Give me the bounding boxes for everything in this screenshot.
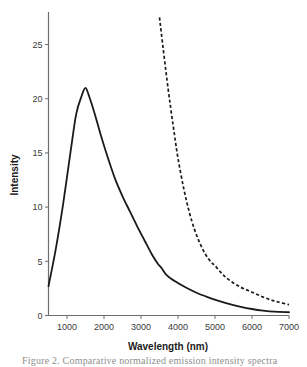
x-tick-label: 5000	[205, 322, 225, 332]
data-series	[49, 17, 290, 312]
x-axis-ticks: 1000200030004000500060007000	[57, 316, 299, 332]
x-tick-label: 4000	[168, 322, 188, 332]
series-solid-curve	[49, 88, 290, 312]
y-axis-ticks: 0510152025	[32, 40, 48, 321]
x-tick-label: 1000	[57, 322, 77, 332]
figure-caption-strip: Figure 2. Comparative normalized emissio…	[0, 356, 307, 367]
y-tick-label: 20	[32, 94, 42, 104]
y-tick-label: 0	[37, 311, 42, 321]
x-axis-title: Wavelength (nm)	[128, 341, 208, 352]
x-tick-label: 2000	[94, 322, 114, 332]
x-tick-label: 6000	[242, 322, 262, 332]
y-tick-label: 5	[37, 257, 42, 267]
y-tick-label: 25	[32, 40, 42, 50]
intensity-vs-wavelength-chart: 0510152025 1000200030004000500060007000 …	[0, 0, 307, 367]
y-axis-title: Intensity	[9, 154, 20, 196]
series-dashed-curve	[160, 17, 290, 304]
y-tick-label: 15	[32, 148, 42, 158]
axes	[49, 12, 290, 316]
x-tick-label: 3000	[131, 322, 151, 332]
x-tick-label: 7000	[279, 322, 299, 332]
figure-caption: Figure 2. Comparative normalized emissio…	[22, 356, 302, 366]
figure-container: 0510152025 1000200030004000500060007000 …	[0, 0, 307, 367]
y-tick-label: 10	[32, 202, 42, 212]
